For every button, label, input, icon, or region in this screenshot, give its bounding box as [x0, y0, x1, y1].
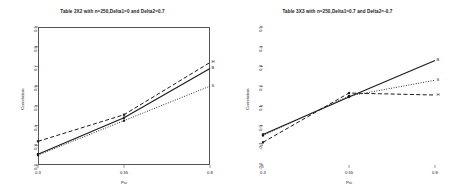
data-point-marker — [348, 92, 350, 94]
y-tick-label: 0.4 — [33, 125, 38, 131]
y-tick-label: 0.3 — [258, 66, 263, 72]
y-axis-title-left: Correlation — [20, 89, 25, 110]
x-axis-title-right: Psi — [263, 180, 435, 185]
y-axis-title-right: Correlation — [245, 89, 250, 110]
chart-panel-right: Table 3X3 with n=250,Delta1=0.7 and Delt… — [225, 0, 450, 192]
y-tick-label: 0.2 — [258, 85, 263, 91]
x-tick-label: 0.3 — [253, 170, 273, 175]
x-axis-title-left: Psi — [38, 180, 210, 185]
y-tick-label: 0.2 — [33, 164, 38, 170]
x-tick-label: 0.55 — [114, 170, 134, 175]
data-point-marker — [262, 134, 264, 136]
y-tick-label: 0.3 — [33, 144, 38, 150]
y-tick-label: -0.2 — [258, 163, 263, 170]
series-end-label-b: B — [212, 65, 215, 70]
data-point-marker — [348, 95, 350, 97]
y-tick-label: 0.8 — [33, 46, 38, 52]
y-tick-label: 0.1 — [258, 105, 263, 111]
y-tick-label: 0.0 — [258, 125, 263, 131]
x-tick-label: 0.55 — [339, 170, 359, 175]
series-end-label-h: H — [212, 59, 215, 64]
figure-canvas: Table 2X2 with n=250,Delta1=0 and Delta2… — [0, 0, 450, 192]
series-line-b — [38, 68, 210, 154]
data-point-marker — [37, 154, 39, 156]
series-line-s — [263, 80, 435, 135]
chart-panel-left: Table 2X2 with n=250,Delta1=0 and Delta2… — [0, 0, 225, 192]
series-line-h — [38, 62, 210, 141]
y-tick-label: 0.7 — [33, 66, 38, 72]
data-point-marker — [123, 117, 125, 119]
series-end-label-s: S — [437, 77, 440, 82]
y-tick-label: 0.4 — [258, 46, 263, 52]
x-tick-label: 0.8 — [200, 170, 220, 175]
x-tick-label: 0.8 — [425, 170, 445, 175]
data-point-marker — [123, 120, 125, 122]
series-end-label-h: H — [437, 92, 440, 97]
series-end-label-s: S — [212, 83, 215, 88]
series-end-label-b: B — [437, 57, 440, 62]
x-tick-label: 0.3 — [28, 170, 48, 175]
y-tick-label: 0.5 — [33, 105, 38, 111]
y-tick-label: 0.6 — [33, 85, 38, 91]
y-tick-label: 0.9 — [33, 26, 38, 32]
y-tick-label: -0.1 — [258, 143, 263, 150]
series-line-h — [263, 93, 435, 142]
data-point-marker — [37, 140, 39, 142]
data-point-marker — [123, 114, 125, 116]
y-tick-label: 0.5 — [258, 26, 263, 32]
